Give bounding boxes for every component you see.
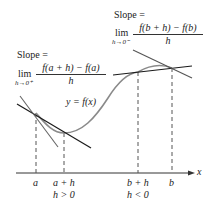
left-slope-label: Slope = [17, 50, 48, 60]
x-axis-label: x [197, 167, 201, 177]
left-denominator: h [36, 75, 106, 86]
tangent-line-at-b [113, 66, 192, 75]
curve-label: y = f(x) [66, 97, 96, 107]
left-numerator: f(a + h) − f(a) [36, 62, 106, 75]
tick-sub-h-positive: h > 0 [53, 190, 75, 200]
left-difference-quotient: f(a + h) − f(a) h [36, 62, 106, 86]
tick-label-b: b [169, 178, 174, 188]
tick-sub-h-negative: h < 0 [127, 190, 149, 200]
secant-line-at-a [20, 96, 58, 147]
left-lim-subscript: h→0⁺ [15, 80, 33, 87]
right-slope-label: Slope = [114, 10, 145, 20]
tick-label-a-plus-h: a + h [53, 178, 75, 188]
secant-line-at-b [133, 50, 192, 78]
x-axis-arrow-icon [188, 171, 195, 176]
right-lim-subscript: h→0⁻ [112, 39, 130, 46]
right-difference-quotient: f(b + h) − f(b) h [133, 22, 203, 46]
right-numerator: f(b + h) − f(b) [133, 22, 203, 35]
left-lim-label: lim [18, 69, 31, 79]
tick-label-b-plus-h: b + h [127, 178, 149, 188]
tick-label-a: a [33, 178, 38, 188]
right-lim-label: lim [115, 28, 128, 38]
right-denominator: h [133, 35, 203, 46]
